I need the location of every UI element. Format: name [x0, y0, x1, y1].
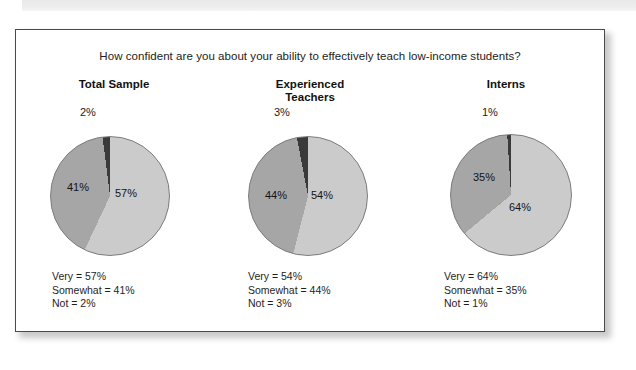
- pie-callout-not-experienced-teachers: 3%: [274, 106, 290, 118]
- pie-slice-label-somewhat-experienced-teachers: 44%: [265, 189, 287, 201]
- legend-row-not: Not = 3%: [248, 297, 386, 311]
- pie-panel-experienced-teachers: Experienced Teachers 3% 54% 44% Very = 5…: [212, 78, 408, 311]
- pie-chart-row: Total Sample 2% 57% 41% Very = 57% Somew…: [16, 78, 604, 311]
- panel-header-experienced-teachers: Experienced Teachers: [276, 78, 344, 106]
- pie-area-experienced-teachers: 3% 54% 44%: [234, 106, 386, 256]
- pie-panel-interns: Interns 1% 64% 35% Very = 64% Somewhat =…: [408, 78, 604, 311]
- pie-panel-total-sample: Total Sample 2% 57% 41% Very = 57% Somew…: [16, 78, 212, 311]
- legend-row-very: Very = 64%: [444, 270, 582, 284]
- pie-chart-total-sample: 57% 41%: [50, 136, 170, 256]
- legend-total-sample: Very = 57% Somewhat = 41% Not = 2%: [38, 270, 190, 311]
- pie-slice-label-somewhat-total-sample: 41%: [67, 181, 89, 193]
- pie-area-total-sample: 2% 57% 41%: [38, 106, 190, 256]
- pie-area-interns: 1% 64% 35%: [430, 106, 582, 256]
- cropped-caption-strip: [22, 0, 636, 11]
- panel-header-total-sample: Total Sample: [79, 78, 150, 106]
- panel-header-interns: Interns: [487, 78, 525, 106]
- legend-row-very: Very = 54%: [248, 270, 386, 284]
- pie-slice-label-very-experienced-teachers: 54%: [311, 189, 333, 201]
- legend-interns: Very = 64% Somewhat = 35% Not = 1%: [430, 270, 582, 311]
- legend-experienced-teachers: Very = 54% Somewhat = 44% Not = 3%: [234, 270, 386, 311]
- legend-row-somewhat: Somewhat = 35%: [444, 284, 582, 298]
- pie-slice-label-somewhat-interns: 35%: [473, 171, 495, 183]
- legend-row-somewhat: Somewhat = 44%: [248, 284, 386, 298]
- pie-slice-label-very-interns: 64%: [509, 201, 531, 213]
- legend-row-very: Very = 57%: [52, 270, 190, 284]
- pie-callout-not-total-sample: 2%: [80, 106, 96, 118]
- pie-chart-interns: 64% 35%: [450, 134, 572, 256]
- legend-row-not: Not = 2%: [52, 297, 190, 311]
- figure-panel: How confident are you about your ability…: [15, 29, 605, 332]
- pie-chart-experienced-teachers: 54% 44%: [248, 136, 368, 256]
- panel-header-line-2: Teachers: [276, 91, 344, 104]
- pie-callout-not-interns: 1%: [482, 106, 498, 118]
- pie-slice-label-very-total-sample: 57%: [115, 187, 137, 199]
- legend-row-somewhat: Somewhat = 41%: [52, 284, 190, 298]
- figure-title: How confident are you about your ability…: [16, 50, 604, 62]
- panel-header-line-1: Experienced: [276, 78, 344, 91]
- legend-row-not: Not = 1%: [444, 297, 582, 311]
